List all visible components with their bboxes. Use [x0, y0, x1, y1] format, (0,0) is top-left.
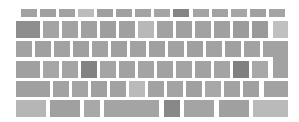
key[interactable]	[73, 41, 89, 57]
key[interactable]	[35, 41, 51, 57]
key[interactable]	[100, 61, 116, 78]
key[interactable]	[219, 100, 249, 117]
key[interactable]	[40, 9, 56, 17]
key[interactable]	[81, 21, 97, 38]
key[interactable]	[16, 81, 50, 97]
key[interactable]	[119, 61, 135, 78]
key[interactable]	[84, 100, 100, 117]
key[interactable]	[16, 61, 40, 78]
key[interactable]	[78, 9, 94, 17]
key[interactable]	[214, 21, 230, 38]
key[interactable]	[176, 61, 192, 78]
key[interactable]	[100, 21, 116, 38]
key[interactable]	[81, 61, 97, 78]
key[interactable]	[43, 61, 59, 78]
key[interactable]	[119, 21, 135, 38]
key[interactable]	[91, 81, 107, 97]
key[interactable]	[138, 21, 154, 38]
key[interactable]	[92, 41, 108, 57]
key[interactable]	[231, 9, 247, 17]
key[interactable]	[224, 81, 240, 97]
keyboard	[0, 0, 299, 122]
key[interactable]	[193, 9, 209, 17]
key[interactable]	[184, 100, 214, 117]
key[interactable]	[16, 100, 46, 117]
key[interactable]	[129, 81, 145, 97]
key[interactable]	[53, 81, 69, 97]
key[interactable]	[253, 100, 288, 117]
key[interactable]	[233, 21, 249, 38]
key[interactable]	[176, 21, 192, 38]
key[interactable]	[50, 100, 80, 117]
key[interactable]	[54, 41, 70, 57]
key[interactable]	[138, 61, 154, 78]
key[interactable]	[164, 100, 180, 117]
key[interactable]	[212, 9, 228, 17]
key[interactable]	[16, 41, 32, 57]
key[interactable]	[43, 21, 59, 38]
key[interactable]	[195, 61, 211, 78]
key[interactable]	[59, 9, 75, 17]
key[interactable]	[269, 9, 285, 17]
key[interactable]	[168, 41, 184, 57]
key[interactable]	[250, 9, 266, 17]
key[interactable]	[233, 61, 249, 78]
key[interactable]	[110, 81, 126, 97]
key[interactable]	[111, 41, 127, 57]
key[interactable]	[135, 9, 151, 17]
key[interactable]	[264, 81, 288, 97]
key[interactable]	[252, 61, 268, 78]
key[interactable]	[154, 9, 170, 17]
key[interactable]	[214, 61, 230, 78]
key[interactable]	[97, 9, 113, 17]
key[interactable]	[130, 41, 146, 57]
key[interactable]	[244, 41, 260, 57]
key[interactable]	[273, 21, 288, 38]
key[interactable]	[157, 21, 173, 38]
key[interactable]	[173, 9, 189, 17]
key[interactable]	[187, 41, 203, 57]
key[interactable]	[72, 81, 88, 97]
enter-key-top[interactable]	[263, 41, 288, 57]
key[interactable]	[16, 21, 40, 38]
key[interactable]	[62, 61, 78, 78]
key[interactable]	[195, 21, 211, 38]
key[interactable]	[157, 61, 173, 78]
key[interactable]	[21, 9, 37, 17]
key[interactable]	[252, 21, 268, 38]
key[interactable]	[225, 41, 241, 57]
key[interactable]	[62, 21, 78, 38]
key[interactable]	[148, 81, 164, 97]
key[interactable]	[206, 41, 222, 57]
enter-key-bottom[interactable]	[273, 57, 288, 78]
key[interactable]	[167, 81, 183, 97]
key[interactable]	[243, 81, 259, 97]
key[interactable]	[205, 81, 221, 97]
key[interactable]	[149, 41, 165, 57]
key[interactable]	[116, 9, 132, 17]
key[interactable]	[104, 100, 159, 117]
key[interactable]	[186, 81, 202, 97]
